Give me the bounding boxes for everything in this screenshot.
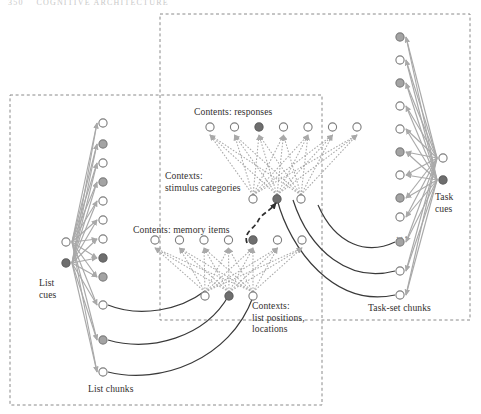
task-cue-node [439, 154, 447, 162]
label-contents-responses: Contents: responses [194, 106, 272, 118]
list-chunk-node [99, 140, 107, 148]
list-chunk-node [99, 178, 107, 186]
label-task-cues: Task cues [435, 191, 453, 214]
label-list-chunks: List chunks [88, 383, 134, 395]
task-set-chunk-node [396, 102, 404, 110]
task-set-chunk-node [396, 148, 404, 156]
response-context-node [249, 195, 257, 203]
task-set-chunk-node [396, 213, 404, 221]
label-list-cues: List cues [39, 277, 56, 300]
task-set-chunk-node [396, 194, 404, 202]
label-task-set-chunks: Task-set chunks [368, 302, 431, 314]
list-chunk-feed-lines [108, 291, 253, 375]
label-contexts-list-positions: Contexts: list positions, locations [252, 300, 305, 335]
task-set-chunk-node [396, 171, 404, 179]
memory-item-content-node [151, 236, 159, 244]
response-content-node [255, 123, 263, 131]
memory-item-context-node [249, 292, 257, 300]
response-content-node [206, 123, 214, 131]
list-chunk-node [99, 119, 107, 127]
memory-item-content-node [224, 236, 232, 244]
label-contents-memory-items: Contents: memory items [133, 224, 230, 236]
list-chunk-node [99, 368, 107, 376]
response-content-node [230, 123, 238, 131]
list-cue-node [62, 238, 70, 246]
response-content-node [279, 123, 287, 131]
list-chunk-node [99, 235, 107, 243]
memory-items-network-links [155, 248, 302, 292]
memory-item-content-node [200, 236, 208, 244]
list-chunk-node [99, 301, 107, 309]
list-chunk-node [99, 197, 107, 205]
task-set-chunk-node [396, 267, 404, 275]
task-set-chunk-node [396, 125, 404, 133]
label-contexts-stimulus-categories: Contexts: stimulus categories [165, 170, 241, 193]
task-set-chunk-node [396, 291, 404, 299]
response-content-node [328, 123, 336, 131]
response-context-node [297, 195, 305, 203]
task-set-chunk-node [396, 56, 404, 64]
diagram-svg [0, 0, 481, 414]
task-set-chunk-node [396, 33, 404, 41]
list-chunk-node [99, 336, 107, 344]
list-cue-node [62, 259, 70, 267]
task-chunk-feed-lines [277, 199, 395, 297]
list-chunk-node [99, 216, 107, 224]
list-chunk-node [99, 273, 107, 281]
memory-item-content-node [175, 236, 183, 244]
memory-item-content-node [273, 236, 281, 244]
list-cue-links [72, 123, 97, 372]
memory-item-context-node [201, 292, 209, 300]
memory-item-content-node [298, 236, 306, 244]
list-chunk-node [99, 159, 107, 167]
list-memory-module-box [10, 95, 322, 405]
task-set-chunk-node [396, 79, 404, 87]
memory-item-content-node [249, 236, 257, 244]
figure-canvas: 350 COGNITIVE ARCHITECTURE List cues [0, 0, 481, 414]
label-ellipsis: ... [396, 228, 409, 240]
response-content-node [353, 123, 361, 131]
task-set-module-box [160, 14, 470, 320]
list-chunk-node [99, 254, 107, 262]
memory-item-context-node [225, 292, 233, 300]
task-cue-links [406, 37, 437, 295]
response-context-node [273, 195, 281, 203]
task-cue-node [439, 176, 447, 184]
response-content-node [304, 123, 312, 131]
